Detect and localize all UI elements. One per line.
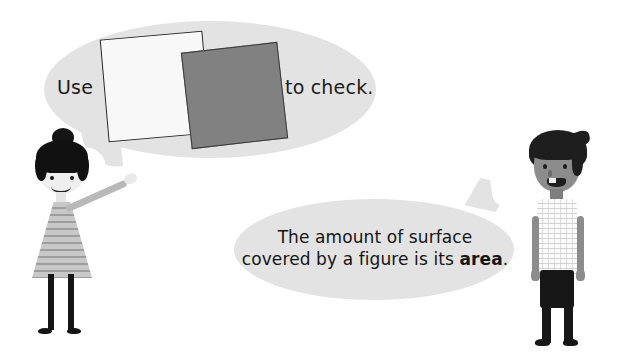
girl-figure [10, 128, 140, 350]
illustration-canvas: Use to check. The amount of surface cove… [0, 0, 619, 358]
boy-teeth [549, 178, 556, 183]
boy-pants [540, 270, 574, 308]
girl-shoe-left [38, 328, 52, 334]
boy-leg-right [564, 305, 573, 343]
boy-hand-left [531, 270, 540, 281]
bubble-1-text-before: Use [57, 76, 93, 98]
bubble-2-keyword-area: area [459, 249, 502, 269]
gray-square [181, 42, 288, 149]
boy-arm-right [577, 216, 584, 274]
bubble-2-line-2: covered by a figure is its area. [240, 248, 510, 270]
bubble-2-text: The amount of surface covered by a figur… [240, 226, 510, 270]
girl-hair-side-right [77, 154, 89, 181]
boy-nose [548, 170, 552, 177]
boy-shoe-right [563, 339, 578, 346]
boy-figure [520, 130, 602, 350]
boy-eye-left [543, 164, 547, 169]
boy-leg-left [542, 305, 551, 343]
boy-hand-right [576, 270, 585, 281]
girl-leg-left [48, 274, 54, 330]
girl-leg-right [68, 274, 74, 330]
girl-shoe-right [67, 328, 81, 334]
bubble-2-line-1: The amount of surface [240, 226, 510, 248]
boy-eye-right [563, 164, 567, 169]
boy-shoe-left [535, 339, 550, 346]
bubble-2-line-2-end: . [503, 249, 509, 269]
boy-sideburn [572, 150, 583, 176]
girl-dress-pattern [32, 202, 92, 278]
boy-shirt [537, 199, 577, 277]
girl-hair-side-left [35, 154, 47, 181]
bubble-2-line-2-plain: covered by a figure is its [242, 249, 460, 269]
boy-arm-left [532, 216, 539, 274]
bubble-1-text-after: to check. [285, 76, 374, 98]
